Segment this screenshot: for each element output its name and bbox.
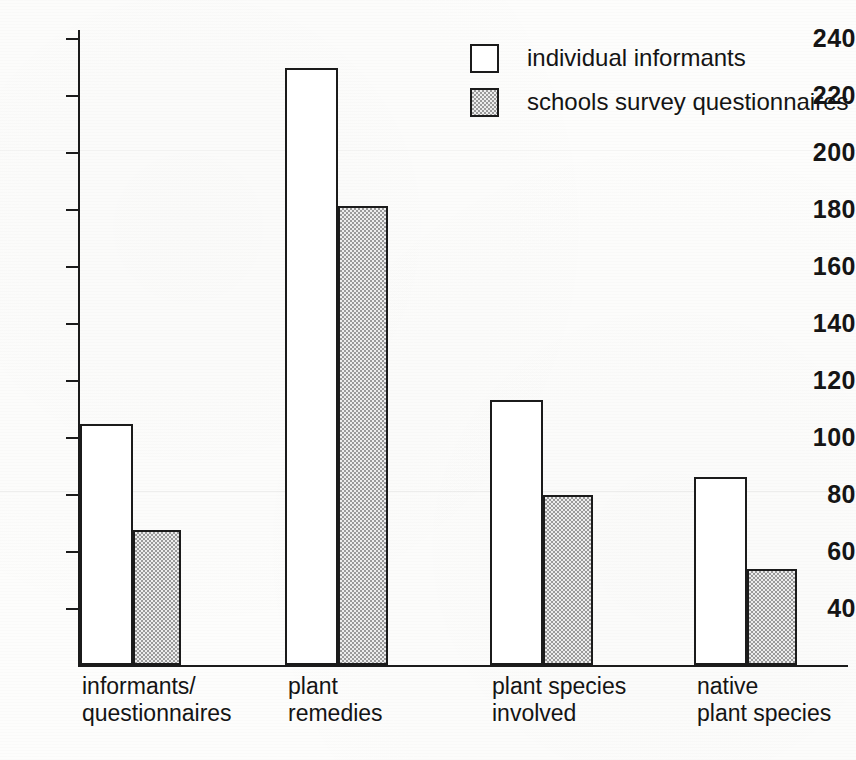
y-tick-label: 60: [798, 539, 856, 564]
y-tick-label: 180: [798, 197, 856, 222]
bar-series-a-cat-2: [490, 400, 543, 665]
y-tick-mark: [66, 209, 79, 211]
legend-swatch-white-icon: [470, 44, 499, 73]
bar-series-b-cat-3: [747, 569, 797, 665]
bar-chart: 240 220 200 180 160 140 120 100 80 60 40…: [0, 0, 856, 760]
y-tick-label: 200: [798, 140, 856, 165]
x-category-label-2: plant species involved: [492, 673, 626, 727]
bar-series-b-cat-1: [338, 206, 388, 665]
x-category-label-3: native plant species: [697, 673, 831, 727]
y-tick-mark: [66, 38, 79, 40]
x-axis-line: [78, 665, 848, 667]
y-tick-mark: [66, 437, 79, 439]
legend-label: individual informants: [527, 46, 746, 70]
bar-series-b-cat-2: [543, 495, 593, 665]
bar-series-a-cat-3: [694, 477, 747, 665]
y-tick-mark: [66, 551, 79, 553]
y-tick-mark: [66, 152, 79, 154]
y-tick-mark: [66, 266, 79, 268]
y-tick-mark: [66, 494, 79, 496]
legend-swatch-hatched-icon: [470, 88, 499, 117]
legend-label: schools survey questionnaires: [527, 90, 849, 114]
y-tick-mark: [66, 95, 79, 97]
legend-item-schools-survey-questionnaires: schools survey questionnaires: [470, 80, 849, 124]
y-tick-label: 120: [798, 368, 856, 393]
y-tick-mark: [66, 608, 79, 610]
y-tick-label: 80: [798, 482, 856, 507]
y-tick-mark: [66, 380, 79, 382]
x-category-label-1: plant remedies: [288, 673, 383, 727]
y-tick-label: 100: [798, 425, 856, 450]
chart-legend: individual informants schools survey que…: [470, 36, 849, 124]
chart-page: 240 220 200 180 160 140 120 100 80 60 40…: [0, 0, 856, 760]
y-tick-label: 140: [798, 311, 856, 336]
bar-series-a-cat-0: [80, 424, 133, 665]
legend-item-individual-informants: individual informants: [470, 36, 849, 80]
bar-series-b-cat-0: [133, 530, 181, 665]
x-category-label-0: informants/ questionnaires: [82, 673, 232, 727]
y-tick-label: 160: [798, 254, 856, 279]
y-tick-mark: [66, 323, 79, 325]
bar-series-a-cat-1: [285, 68, 338, 665]
